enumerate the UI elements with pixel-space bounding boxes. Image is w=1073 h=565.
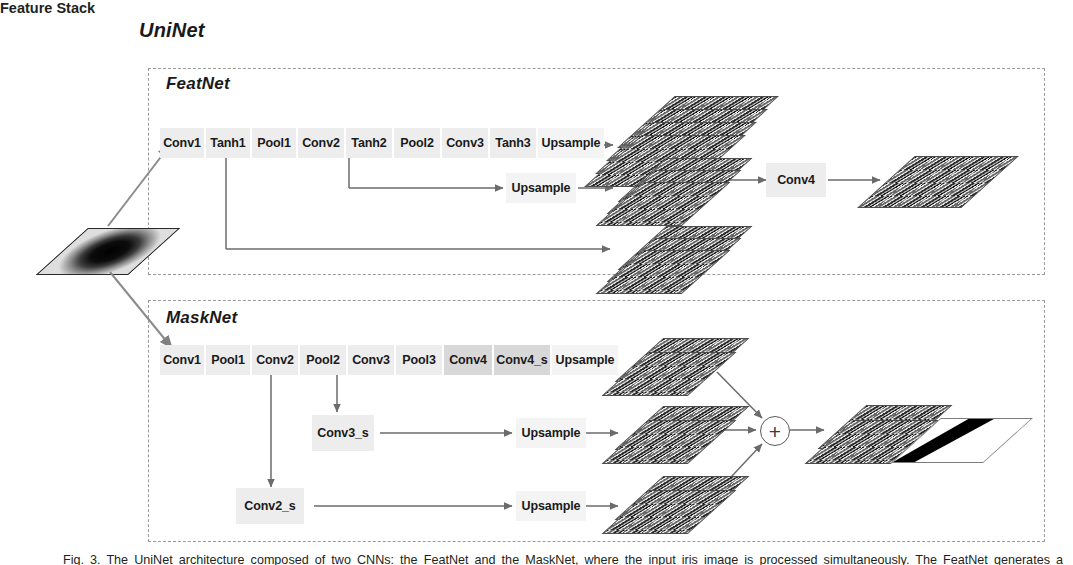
masknet-block-pool1[interactable]: Pool1	[206, 345, 250, 375]
feature-stack-label: Feature Stack	[0, 0, 1073, 16]
masknet-title: MaskNet	[166, 308, 237, 328]
masknet-feature-stack-3	[617, 476, 732, 526]
featnet-title: FeatNet	[166, 74, 230, 94]
masknet-block-conv2[interactable]: Conv2	[252, 345, 298, 375]
merge-add-operator: +	[760, 416, 790, 446]
featnet-block-conv1[interactable]: Conv1	[160, 128, 204, 158]
masknet-block-conv3-s[interactable]: Conv3_s	[312, 415, 374, 451]
figure-title: UniNet	[139, 19, 205, 42]
featnet-block-conv2[interactable]: Conv2	[298, 128, 344, 158]
masknet-block-conv1[interactable]: Conv1	[160, 345, 204, 375]
figure-caption: Fig. 3. The UniNet architecture composed…	[63, 553, 1063, 565]
featnet-block-upsample-1[interactable]: Upsample	[538, 128, 604, 158]
masknet-feature-stack-1	[617, 338, 732, 388]
featnet-block-conv3[interactable]: Conv3	[442, 128, 488, 158]
featnet-block-tanh1[interactable]: Tanh1	[206, 128, 250, 158]
masknet-block-pool2[interactable]: Pool2	[300, 345, 346, 375]
masknet-block-upsample-3[interactable]: Upsample	[516, 491, 586, 521]
featnet-block-conv4[interactable]: Conv4	[766, 163, 826, 197]
featnet-block-tanh3[interactable]: Tanh3	[490, 128, 536, 158]
featnet-feature-stack-3	[612, 226, 727, 284]
figure-canvas: UniNet FeatNet MaskNet Feature Stack	[0, 0, 1073, 565]
masknet-block-upsample-2[interactable]: Upsample	[516, 418, 586, 448]
masknet-block-upsample-1[interactable]: Upsample	[552, 345, 618, 375]
masknet-block-pool3[interactable]: Pool3	[396, 345, 442, 375]
masknet-feature-stack-2	[617, 406, 732, 456]
featnet-block-pool1[interactable]: Pool1	[252, 128, 296, 158]
featnet-block-pool2[interactable]: Pool2	[394, 128, 440, 158]
masknet-block-conv4[interactable]: Conv4	[444, 345, 492, 375]
featnet-output-feature-map	[878, 156, 988, 202]
masknet-block-conv4-s[interactable]: Conv4_s	[494, 345, 550, 375]
masknet-block-conv3[interactable]: Conv3	[348, 345, 394, 375]
featnet-block-upsample-2[interactable]: Upsample	[506, 173, 576, 203]
masknet-block-conv2-s[interactable]: Conv2_s	[236, 488, 304, 524]
plus-symbol: +	[769, 421, 781, 442]
featnet-feature-stack-2	[612, 158, 727, 220]
featnet-block-tanh2[interactable]: Tanh2	[346, 128, 392, 158]
